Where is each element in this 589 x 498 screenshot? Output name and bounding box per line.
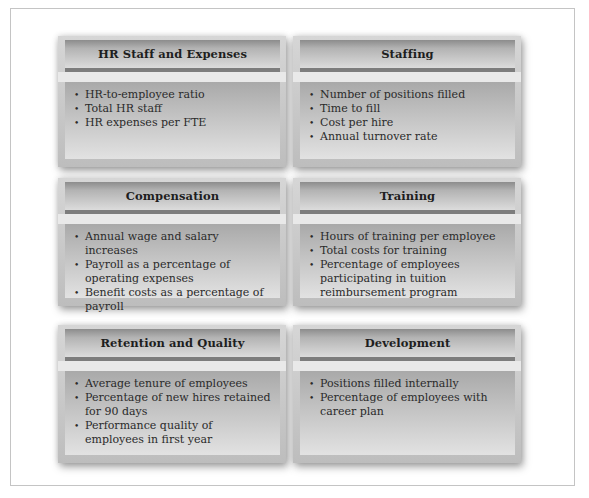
card-header: Development xyxy=(300,329,515,361)
bullet-icon: • xyxy=(74,102,79,116)
list-item: •Positions filled internally xyxy=(308,377,507,391)
bullet-icon: • xyxy=(74,230,79,244)
card-divider xyxy=(293,214,521,224)
card-divider xyxy=(58,214,286,224)
bullet-icon: • xyxy=(74,116,79,130)
list-item: •HR expenses per FTE xyxy=(73,116,272,130)
list-item: •Total HR staff xyxy=(73,102,272,116)
bullet-icon: • xyxy=(309,230,314,244)
bullet-icon: • xyxy=(309,244,314,258)
card-body: •Average tenure of employees •Percentage… xyxy=(65,371,280,455)
list-item: •Annual wage and salary increases xyxy=(73,230,272,258)
bullet-icon: • xyxy=(74,391,79,405)
list-item: •Benefit costs as a percentage of payrol… xyxy=(73,286,272,314)
bullet-icon: • xyxy=(74,377,79,391)
bullet-icon: • xyxy=(74,419,79,433)
card-training: Training •Hours of training per employee… xyxy=(293,178,521,306)
metric-list: •Positions filled internally •Percentage… xyxy=(308,377,507,419)
metric-list: •Number of positions filled •Time to fil… xyxy=(308,88,507,144)
list-item: •Percentage of employees participating i… xyxy=(308,258,507,300)
card-header: HR Staff and Expenses xyxy=(65,40,280,72)
bullet-icon: • xyxy=(309,88,314,102)
list-item: •HR-to-employee ratio xyxy=(73,88,272,102)
bullet-icon: • xyxy=(309,116,314,130)
card-header: Compensation xyxy=(65,182,280,214)
card-compensation: Compensation •Annual wage and salary inc… xyxy=(58,178,286,306)
list-item: •Hours of training per employee xyxy=(308,230,507,244)
metric-list: •Average tenure of employees •Percentage… xyxy=(73,377,272,447)
list-item: •Number of positions filled xyxy=(308,88,507,102)
card-staffing: Staffing •Number of positions filled •Ti… xyxy=(293,36,521,167)
list-item: •Percentage of new hires retained for 90… xyxy=(73,391,272,419)
card-header: Retention and Quality xyxy=(65,329,280,361)
list-item: •Performance quality of employees in fir… xyxy=(73,419,272,447)
list-item: •Payroll as a percentage of operating ex… xyxy=(73,258,272,286)
list-item: •Annual turnover rate xyxy=(308,130,507,144)
card-body: •Number of positions filled •Time to fil… xyxy=(300,82,515,159)
card-body: •Positions filled internally •Percentage… xyxy=(300,371,515,455)
card-retention-and-quality: Retention and Quality •Average tenure of… xyxy=(58,325,286,463)
card-divider xyxy=(58,72,286,82)
card-header: Training xyxy=(300,182,515,214)
bullet-icon: • xyxy=(309,391,314,405)
card-body: •Hours of training per employee •Total c… xyxy=(300,224,515,298)
bullet-icon: • xyxy=(74,88,79,102)
card-divider xyxy=(293,361,521,371)
bullet-icon: • xyxy=(74,258,79,272)
metric-list: •Annual wage and salary increases •Payro… xyxy=(73,230,272,314)
list-item: •Time to fill xyxy=(308,102,507,116)
bullet-icon: • xyxy=(309,258,314,272)
bullet-icon: • xyxy=(74,286,79,300)
bullet-icon: • xyxy=(309,130,314,144)
bullet-icon: • xyxy=(309,102,314,116)
card-divider xyxy=(58,361,286,371)
list-item: •Average tenure of employees xyxy=(73,377,272,391)
metric-list: •HR-to-employee ratio •Total HR staff •H… xyxy=(73,88,272,130)
card-header: Staffing xyxy=(300,40,515,72)
metric-list: •Hours of training per employee •Total c… xyxy=(308,230,507,300)
card-divider xyxy=(293,72,521,82)
card-body: •Annual wage and salary increases •Payro… xyxy=(65,224,280,298)
list-item: •Percentage of employees with career pla… xyxy=(308,391,507,419)
bullet-icon: • xyxy=(309,377,314,391)
list-item: •Cost per hire xyxy=(308,116,507,130)
card-body: •HR-to-employee ratio •Total HR staff •H… xyxy=(65,82,280,159)
card-development: Development •Positions filled internally… xyxy=(293,325,521,463)
card-hr-staff-and-expenses: HR Staff and Expenses •HR-to-employee ra… xyxy=(58,36,286,167)
list-item: •Total costs for training xyxy=(308,244,507,258)
